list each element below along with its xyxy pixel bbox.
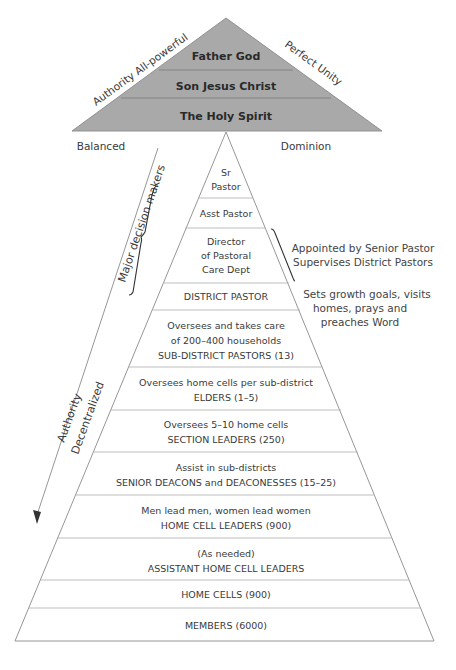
level-sub-district-pastors: Oversees and takes care [167, 320, 285, 331]
level-elders: ELDERS (1–5) [194, 392, 259, 403]
level-director: Care Dept [202, 264, 250, 275]
trinity-level-spirit: The Holy Spirit [180, 110, 272, 123]
director-bracket [271, 229, 295, 281]
director-note-line: Appointed by Senior Pastor [292, 242, 435, 254]
level-asst-pastor: Asst Pastor [200, 208, 253, 219]
level-sub-district-pastors: of 200–400 households [171, 335, 281, 346]
level-director: of Pastoral [201, 250, 251, 261]
director-note: Appointed by Senior Pastor Supervises Di… [292, 242, 435, 268]
level-assistant-home-cell-leaders: ASSISTANT HOME CELL LEADERS [148, 563, 305, 574]
arrow-shaft [37, 148, 158, 515]
balanced-label: Balanced [77, 140, 126, 152]
district-pastor-note-line: preaches Word [321, 316, 399, 328]
church-pyramid: Sr Pastor Asst Pastor Director of Pastor… [15, 132, 434, 641]
district-pastor-note-line: homes, prays and [313, 302, 407, 314]
level-home-cell-leaders: HOME CELL LEADERS (900) [161, 520, 291, 531]
authority-decentralized-arrow [33, 148, 158, 524]
dominion-label: Dominion [281, 140, 331, 152]
level-director: Director [207, 236, 245, 247]
level-sr-pastor: Pastor [211, 181, 241, 192]
district-pastor-note-line: Sets growth goals, visits [303, 288, 431, 300]
level-section-leaders: Oversees 5–10 home cells [164, 419, 289, 430]
level-elders: Oversees home cells per sub-district [139, 377, 313, 388]
level-home-cell-leaders: Men lead men, women lead women [141, 505, 310, 516]
arrow-head-icon [33, 510, 41, 524]
trinity-level-son: Son Jesus Christ [176, 80, 276, 93]
district-pastor-note: Sets growth goals, visits homes, prays a… [303, 288, 431, 328]
level-district-pastor: DISTRICT PASTOR [184, 291, 269, 302]
trinity-pyramid: Father God Son Jesus Christ The Holy Spi… [72, 18, 382, 131]
level-sub-district-pastors: SUB-DISTRICT PASTORS (13) [158, 350, 294, 361]
director-note-line: Supervises District Pastors [293, 256, 433, 268]
major-decision-makers-label: Major decision makers [116, 163, 169, 284]
level-section-leaders: SECTION LEADERS (250) [167, 434, 284, 445]
level-home-cells: HOME CELLS (900) [181, 589, 271, 600]
church-hierarchy-diagram: Father God Son Jesus Christ The Holy Spi… [0, 0, 456, 670]
level-senior-deacons: SENIOR DEACONS and DEACONESSES (15–25) [116, 477, 336, 488]
level-senior-deacons: Assist in sub-districts [176, 462, 277, 473]
trinity-level-father: Father God [192, 50, 261, 63]
level-assistant-home-cell-leaders: (As needed) [197, 548, 255, 559]
level-members: MEMBERS (6000) [185, 620, 267, 631]
level-sr-pastor: Sr [221, 167, 231, 178]
